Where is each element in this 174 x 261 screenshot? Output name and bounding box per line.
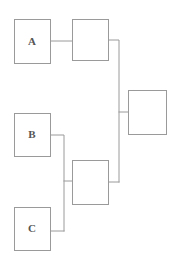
node-input-a[interactable]: A — [15, 20, 51, 64]
wire-stage-top-to-trunk — [108, 40, 119, 182]
nodes-layer: ABC — [15, 20, 167, 251]
node-label-input-c: C — [28, 222, 36, 234]
node-box-stage-bottom[interactable] — [73, 161, 109, 205]
diagram-svg: ABC — [0, 0, 174, 261]
node-box-stage-top[interactable] — [73, 20, 109, 61]
node-stage-top[interactable] — [73, 20, 109, 61]
node-label-input-a: A — [28, 35, 36, 47]
node-label-input-b: B — [28, 128, 36, 140]
node-stage-output[interactable] — [129, 91, 167, 135]
node-stage-bottom[interactable] — [73, 161, 109, 205]
node-input-b[interactable]: B — [15, 114, 51, 157]
wire-b-to-junction — [50, 135, 64, 231]
block-diagram-canvas: ABC — [0, 0, 174, 261]
node-input-c[interactable]: C — [15, 208, 51, 251]
node-box-stage-output[interactable] — [129, 91, 167, 135]
